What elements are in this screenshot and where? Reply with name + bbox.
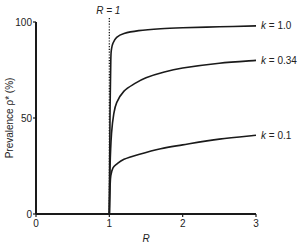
y-tick-label: 50: [21, 113, 33, 124]
prevalence-chart: 0501000123 Prevalence ρ* (%) R R = 1 k =…: [0, 0, 299, 247]
y-tick-label: 100: [15, 17, 32, 28]
series-line-k-0-1: [109, 135, 256, 214]
x-axis-label: R: [142, 233, 149, 244]
x-tick-label: 0: [33, 218, 39, 229]
x-tick-label: 2: [180, 218, 186, 229]
series-label: k = 1.0: [261, 20, 292, 31]
x-tick-label: 3: [253, 218, 259, 229]
series-label: k = 0.1: [261, 130, 292, 141]
series-label: k = 0.34: [261, 55, 297, 66]
y-tick-label: 0: [26, 209, 32, 220]
series-line-k-1-0: [109, 26, 256, 214]
r-equals-1-annotation: R = 1: [96, 5, 120, 16]
x-tick-label: 1: [107, 218, 113, 229]
series-lines: [109, 18, 256, 214]
y-axis-label: Prevalence ρ* (%): [4, 78, 15, 159]
axes: [36, 22, 256, 214]
ticks: 0501000123: [15, 17, 259, 230]
series-labels: k = 1.0k = 0.34k = 0.1: [261, 20, 297, 140]
